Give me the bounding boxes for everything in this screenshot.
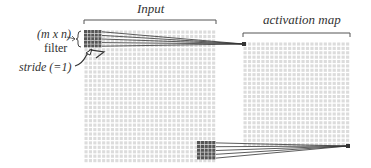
output-cell [346,144,350,148]
filter-size-label: (m x n) [37,27,71,42]
stride-label: stride (=1) [19,60,71,75]
brace-icon [76,31,81,47]
activation-map-label: activation map [263,12,341,28]
output-cell [242,42,246,46]
activation-map-grid [244,43,350,147]
connection-line [216,146,348,158]
input-grid [85,31,216,163]
input-bracket [84,20,216,24]
filter-1 [84,30,101,47]
filter-2 [197,141,215,159]
input-label: Input [137,1,164,17]
filter-label: filter [44,41,67,56]
activation-map-bracket [243,33,350,37]
